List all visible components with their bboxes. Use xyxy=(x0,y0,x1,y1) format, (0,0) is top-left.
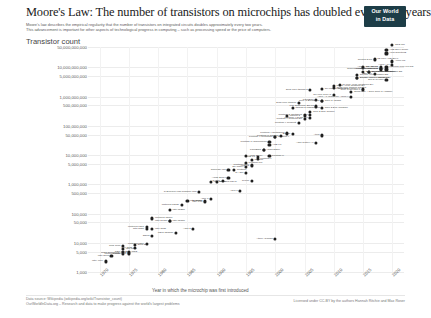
data-point[interactable] xyxy=(151,217,154,220)
data-point-label: Motorola 6801 xyxy=(128,225,144,228)
data-point-label: IBM z14 xyxy=(363,72,372,75)
data-point-label: Intel 80286 xyxy=(173,208,185,211)
data-point-label: Alpha 21264 xyxy=(266,148,280,151)
data-point-label: WDC 65C816 xyxy=(158,231,173,234)
data-point[interactable] xyxy=(309,88,312,91)
y-axis-tick-label: 50,000 xyxy=(74,220,87,225)
data-point[interactable] xyxy=(227,168,230,171)
data-point[interactable] xyxy=(274,237,277,240)
data-point[interactable] xyxy=(321,134,324,137)
data-point[interactable] xyxy=(127,253,130,256)
data-point-label: ARM 2 xyxy=(183,227,191,230)
data-point[interactable] xyxy=(391,60,394,63)
data-point-label: Alpha 21064 xyxy=(212,176,226,179)
data-point[interactable] xyxy=(104,260,107,263)
data-point[interactable] xyxy=(385,78,388,81)
data-point-label: Atmel ATmega xyxy=(256,237,272,240)
data-point-label: K10 quad-core 2M L3 xyxy=(290,105,314,108)
y-axis-tick-label: 10,000,000 xyxy=(65,153,87,158)
y-axis-tick-label: 5,000 xyxy=(76,249,87,254)
x-gridline xyxy=(246,47,247,272)
data-point[interactable] xyxy=(373,58,376,61)
data-point-label: AMD Epyc Rome xyxy=(389,49,408,52)
data-point-label: POWER3 xyxy=(250,149,261,152)
data-point[interactable] xyxy=(321,99,324,102)
data-point-label: Pentium III Coppermine xyxy=(241,141,267,144)
data-point-label: Core i7 Bloomfield xyxy=(299,99,319,102)
y-axis-tick-label: 50,000,000,000 xyxy=(57,45,87,50)
data-point-label: Pentium III xyxy=(272,154,284,157)
data-point-label: CDP 1801 xyxy=(115,250,127,253)
x-gridline xyxy=(392,47,393,272)
data-point-label: AWS Graviton2 xyxy=(389,52,406,55)
data-point-label: Apple A7 (dual-core ARM64) xyxy=(317,95,349,98)
data-point-label: Pentium 4 Cedar Mill xyxy=(285,117,308,120)
data-point-label: AMD K7 xyxy=(272,144,281,147)
y-axis-tick-label: 50,000,000 xyxy=(65,132,87,137)
data-point-label: Motorola 68020 xyxy=(162,204,179,207)
data-point[interactable] xyxy=(192,227,195,230)
data-point[interactable] xyxy=(385,48,388,51)
data-point-label: Intel 80186 xyxy=(155,220,167,223)
data-point-label: GC2 IPU xyxy=(395,43,405,46)
data-point-label: Intel 4004 xyxy=(92,260,103,263)
data-point[interactable] xyxy=(385,52,388,55)
data-point-label: R4000 xyxy=(213,179,220,182)
y-axis-tick-label: 10,000 xyxy=(74,240,87,245)
data-point[interactable] xyxy=(151,234,154,237)
data-point-label: SA-110 xyxy=(235,171,243,174)
data-point[interactable] xyxy=(250,179,253,182)
x-gridline xyxy=(129,47,130,272)
y-axis-tick-label: 1,000 xyxy=(76,270,87,275)
y-axis-tick-label: 100,000,000 xyxy=(63,123,87,128)
data-point[interactable] xyxy=(186,199,189,202)
data-point-label: Quad-core + GPU Core i7 Haswell xyxy=(354,91,392,94)
chart-header: Moore's Law: The number of transistors o… xyxy=(26,6,366,33)
data-point[interactable] xyxy=(309,117,312,120)
data-point[interactable] xyxy=(268,144,271,147)
data-point[interactable] xyxy=(168,208,171,211)
data-point-label: Core i7 (Quad) xyxy=(325,99,342,102)
data-point[interactable] xyxy=(244,171,247,174)
data-point[interactable] xyxy=(356,77,359,80)
data-point[interactable] xyxy=(350,91,353,94)
data-point-label: Core 2 Duo Conroe xyxy=(313,111,335,114)
data-point-label: Intersil 6100 xyxy=(113,253,127,256)
data-point-label: ARM 7 xyxy=(230,190,238,193)
data-point[interactable] xyxy=(262,148,265,151)
scatter-plot-area: 50,000,000,00010,000,000,0005,000,000,00… xyxy=(88,47,404,272)
y-axis-tick-label: 500,000,000 xyxy=(63,103,87,108)
data-point-label: R10000 xyxy=(254,159,263,162)
data-point[interactable] xyxy=(297,121,300,124)
license-text: Licensed under CC-BY by the authors Hann… xyxy=(294,299,405,303)
y-axis-tick-label: 100,000 xyxy=(71,211,87,216)
data-point[interactable] xyxy=(315,141,318,144)
y-axis-tick-label: 10,000,000,000 xyxy=(57,65,87,70)
data-point-label: Atom xyxy=(314,134,320,137)
logo-line-1: Our World xyxy=(364,8,406,16)
chart-subtitle: Moore's law describes the empirical regu… xyxy=(26,22,359,33)
data-point-label: TMS 1000 xyxy=(109,244,121,247)
data-point-label: Intel 80186 xyxy=(173,220,185,223)
x-axis-title: Year in which the microchip was first in… xyxy=(152,288,249,293)
x-gridline xyxy=(305,47,306,272)
data-point-label: 80386SX xyxy=(192,199,202,202)
data-point[interactable] xyxy=(391,43,394,46)
data-point[interactable] xyxy=(350,95,353,98)
data-point-label: Pentium 4 Prescott xyxy=(275,122,296,125)
data-point[interactable] xyxy=(244,166,247,169)
y-axis-tick-label: 5,000,000,000 xyxy=(60,74,87,79)
subtitle-line-2: This advancement is important for other … xyxy=(26,27,359,32)
chart-title: Moore's Law: The number of transistors o… xyxy=(26,6,366,19)
site-credit-text: OurWorldInData.org – Research and data t… xyxy=(26,302,179,307)
data-point[interactable] xyxy=(151,228,154,231)
data-point[interactable] xyxy=(321,87,324,90)
data-point[interactable] xyxy=(209,198,212,201)
y-axis-tick-label: 5,000,000 xyxy=(68,161,87,166)
data-point[interactable] xyxy=(174,231,177,234)
data-point-label: Z8000 xyxy=(143,234,150,237)
data-point-label: Apple M1 xyxy=(395,60,406,63)
owid-logo[interactable]: Our World in Data xyxy=(364,6,406,27)
data-point-label: Dual-core Itanium 2 xyxy=(286,88,308,91)
